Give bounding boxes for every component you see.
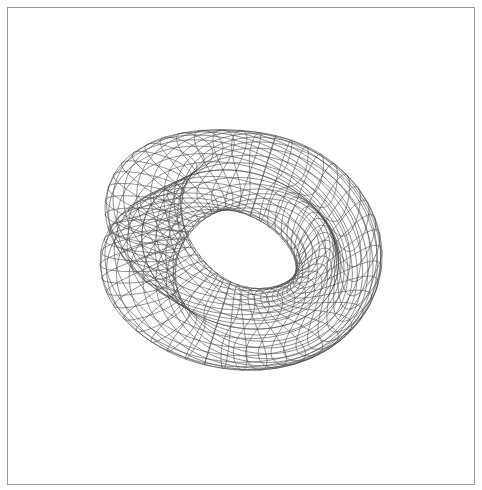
wire-line-v-8: [250, 136, 276, 217]
wire-line-u-23: [166, 204, 362, 363]
wireframe-mesh-canvas: [0, 0, 482, 490]
figure-root: [0, 0, 482, 490]
wireframe-line-group: [100, 130, 382, 371]
wire-line-v-21: [101, 208, 183, 262]
wire-line-u-11: [113, 132, 362, 300]
wire-line-v-38: [272, 278, 338, 356]
wire-line-v-30: [185, 278, 223, 360]
wire-line-u-9: [137, 130, 371, 291]
